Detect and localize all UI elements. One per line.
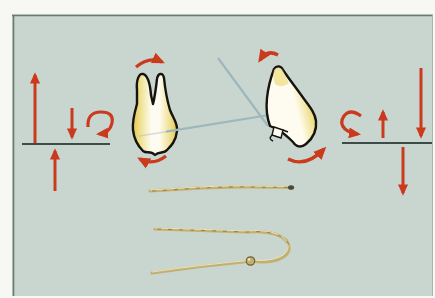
wire-bead bbox=[246, 257, 254, 265]
orthodontic-force-diagram bbox=[0, 0, 435, 298]
diagram-panel bbox=[12, 14, 433, 296]
figure-stage bbox=[0, 0, 435, 298]
wire-bead-highlight bbox=[248, 258, 251, 261]
straight-wire-tip bbox=[288, 185, 294, 190]
